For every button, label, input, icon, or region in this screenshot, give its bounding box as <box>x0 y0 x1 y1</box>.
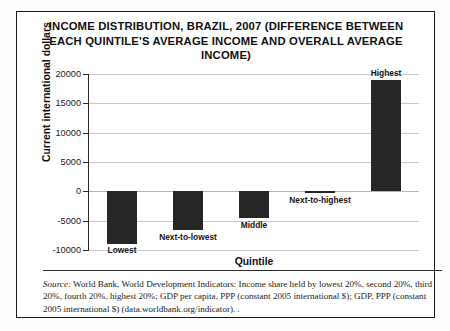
footnote-divider <box>43 270 442 271</box>
y-axis-tick-label: 20000 <box>55 69 81 79</box>
y-axis-tick-label: 0 <box>76 186 81 196</box>
y-axis-tick-label: 15000 <box>55 98 81 108</box>
y-axis-label: Current international dollars <box>41 22 52 162</box>
bar-category-label: Next-to-highest <box>289 195 350 205</box>
y-axis-tick-label: 10000 <box>55 128 81 138</box>
figure-frame: INCOME DISTRIBUTION, BRAZIL, 2007 (DIFFE… <box>16 11 435 318</box>
y-axis-tick <box>83 250 89 251</box>
source-body: World Bank, World Development Indicators… <box>43 279 432 314</box>
y-axis-tick-label: -5000 <box>58 216 82 226</box>
bar <box>107 191 137 243</box>
bar-series: LowestNext-to-lowestMiddleNext-to-highes… <box>89 74 419 250</box>
y-axis-tick-label: -10000 <box>52 245 81 255</box>
source-note: Source: World Bank, World Development In… <box>43 278 442 315</box>
bar <box>239 191 269 218</box>
bar-category-label: Next-to-lowest <box>159 232 217 242</box>
y-axis-tick-label: 5000 <box>61 157 81 167</box>
bar-category-label: Middle <box>241 220 268 230</box>
plot-area: 20000150001000050000-5000-10000 LowestNe… <box>89 74 419 250</box>
chart-title: INCOME DISTRIBUTION, BRAZIL, 2007 (DIFFE… <box>31 19 421 63</box>
bar-category-label: Lowest <box>108 245 137 255</box>
bar-category-label: Highest <box>371 68 402 78</box>
bar <box>371 80 401 191</box>
gridline <box>89 250 419 251</box>
bar <box>305 191 335 193</box>
bar <box>173 191 203 230</box>
figure-page: INCOME DISTRIBUTION, BRAZIL, 2007 (DIFFE… <box>0 0 450 331</box>
x-axis-label: Quintile <box>89 256 419 267</box>
source-label: Source: <box>43 279 71 289</box>
